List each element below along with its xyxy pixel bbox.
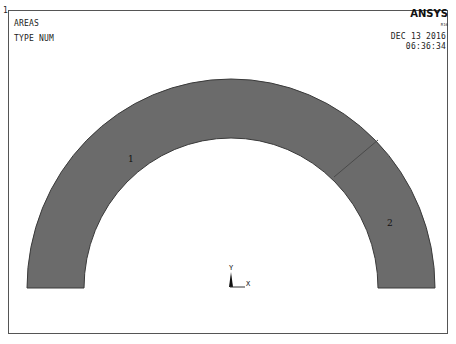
arch-area[interactable] xyxy=(27,79,435,288)
triad-x-label: X xyxy=(246,280,251,288)
area-label-2: 2 xyxy=(387,218,393,228)
area-plot[interactable]: 1 2 Y X xyxy=(0,0,456,344)
area-label-1: 1 xyxy=(128,154,134,164)
triad-y-label: Y xyxy=(229,264,234,272)
axis-triad: Y X xyxy=(229,264,251,288)
